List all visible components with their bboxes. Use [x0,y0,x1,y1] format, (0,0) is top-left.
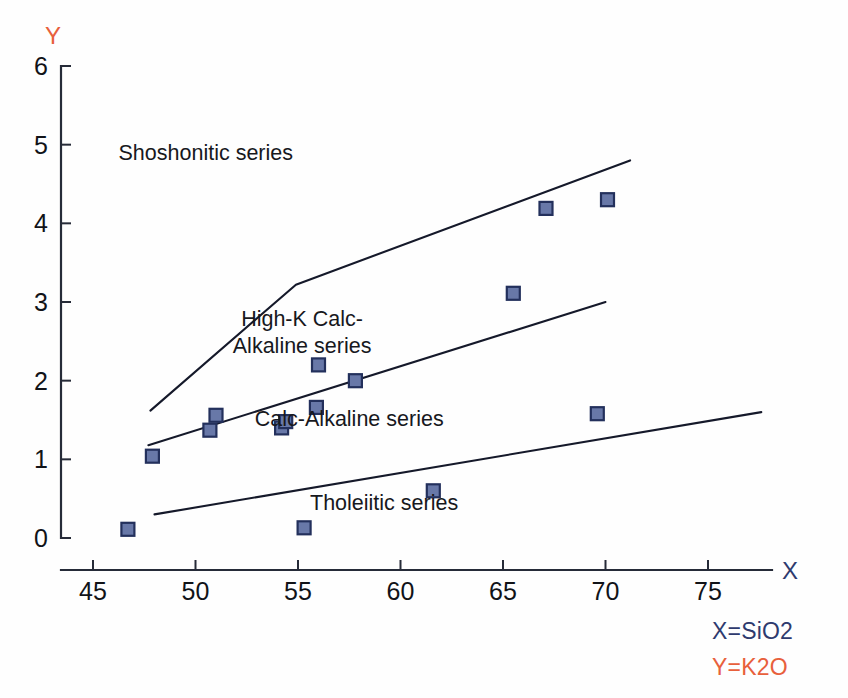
data-point-marker [349,374,362,387]
legend-y-definition: Y=K2O [712,654,788,681]
y-tick-label: 0 [34,524,48,552]
data-point-marker [298,521,311,534]
data-point-marker [591,407,604,420]
y-axis-name: Y [45,22,61,49]
x-tick-label: 50 [182,577,210,605]
y-tick-label: 4 [34,209,48,237]
data-point-marker [312,358,325,371]
x-axis: 45505560657075 [61,560,772,605]
x-tick-label: 75 [694,577,722,605]
y-axis-tick-labels: 0123456 [34,52,48,552]
x-tick-label: 60 [387,577,415,605]
shoshonitic-series-label: Shoshonitic series [119,141,293,165]
x-axis-ticks [93,560,708,570]
tholeiitic-series-label: Tholeiitic series [310,491,458,515]
y-tick-label: 2 [34,367,48,395]
y-axis: 0123456 [34,52,71,552]
shoshonitic-lower-boundary [150,160,630,410]
y-tick-label: 6 [34,52,48,80]
data-point-marker [507,287,520,300]
field-labels: Shoshonitic seriesHigh-K Calc-Alkaline s… [119,141,459,515]
x-axis-name: X [782,557,798,584]
x-tick-label: 45 [79,577,107,605]
x-axis-tick-labels: 45505560657075 [79,577,722,605]
chart-canvas: 0123456 45505560657075 Shoshonitic serie… [0,0,848,698]
x-tick-label: 55 [284,577,312,605]
data-point-marker [601,193,614,206]
high-k-calc-alkaline-series-label: High-K Calc-Alkaline series [233,307,372,358]
data-point-marker [210,409,223,422]
data-point-marker [540,202,553,215]
y-axis-ticks [61,66,71,538]
data-point-marker [203,424,216,437]
x-tick-label: 70 [592,577,620,605]
data-point-markers [121,193,614,536]
y-tick-label: 3 [34,288,48,316]
tas-k2o-sio2-diagram: 0123456 45505560657075 Shoshonitic serie… [0,0,848,698]
legend-x-definition: X=SiO2 [712,618,793,645]
y-tick-label: 5 [34,131,48,159]
y-tick-label: 1 [34,445,48,473]
calc-alkaline-series-label: Calc-Alkaline series [255,407,444,431]
x-tick-label: 65 [489,577,517,605]
data-point-marker [146,450,159,463]
data-point-marker [121,523,134,536]
